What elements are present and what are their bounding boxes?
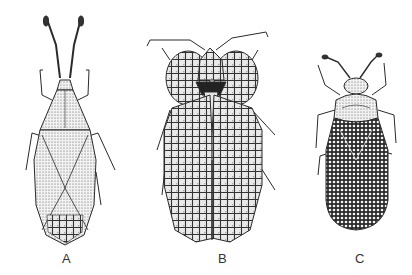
label-b: B — [218, 251, 227, 266]
insect-a — [26, 16, 115, 245]
label-c: C — [355, 251, 364, 266]
insect-b — [147, 32, 275, 242]
insect-illustration — [0, 0, 412, 275]
label-a: A — [62, 251, 71, 266]
insect-c — [316, 53, 396, 230]
